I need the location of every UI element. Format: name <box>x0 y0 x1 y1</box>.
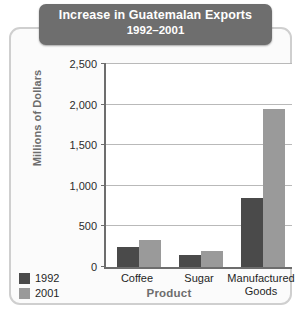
y-axis-tick-label: 2,500 <box>37 58 97 70</box>
chart-legend: 19922001 <box>19 271 91 301</box>
bar-1992-manufactured-goods <box>241 198 263 267</box>
y-axis-tick <box>101 144 106 145</box>
x-axis-title: Product <box>104 287 234 299</box>
chart-subtitle: 1992–2001 <box>39 23 272 38</box>
y-axis-tick-labels: 05001,0001,5002,0002,500 <box>34 64 97 269</box>
bar-group <box>179 64 223 267</box>
y-axis-tick <box>101 104 106 105</box>
bar-1992-sugar <box>179 255 201 267</box>
bar-2001-manufactured-goods <box>263 109 285 267</box>
y-axis-tick-label: 500 <box>37 220 97 232</box>
bar-2001-sugar <box>201 251 223 267</box>
legend-swatch-2001 <box>19 288 30 299</box>
legend-label-2001: 2001 <box>35 287 59 300</box>
legend-item-2001: 2001 <box>19 286 91 301</box>
bar-2001-coffee <box>139 240 161 267</box>
y-axis-tick-label: 1,000 <box>37 180 97 192</box>
y-axis-tick <box>101 63 106 64</box>
chart-title: Increase in Guatemalan Exports <box>39 7 272 23</box>
plot-area <box>104 64 292 269</box>
y-axis-tick-label: 2,000 <box>37 99 97 111</box>
legend-swatch-1992 <box>19 273 30 284</box>
y-axis-tick <box>101 266 106 267</box>
y-axis-tick-label: 1,500 <box>37 139 97 151</box>
x-axis-tick-label: Coffee <box>107 272 167 285</box>
bar-1992-coffee <box>117 247 139 267</box>
legend-item-1992: 1992 <box>19 271 91 286</box>
legend-label-1992: 1992 <box>35 272 59 285</box>
bar-group <box>117 64 161 267</box>
y-axis-tick <box>101 185 106 186</box>
chart-title-banner: Increase in Guatemalan Exports 1992–2001 <box>39 4 272 45</box>
chart-figure: Increase in Guatemalan Exports 1992–2001… <box>0 0 307 329</box>
bar-group <box>241 64 285 267</box>
y-axis-tick <box>101 225 106 226</box>
